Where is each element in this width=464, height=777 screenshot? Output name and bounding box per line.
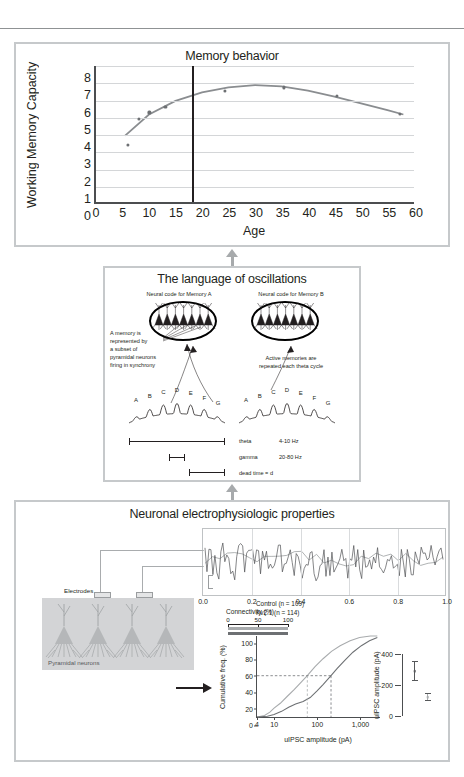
amplitude-tickmark: 200: [395, 685, 401, 686]
electrode-wire-2: [142, 566, 204, 570]
gamma-cycle-letter: C: [161, 389, 165, 395]
gamma-band-range: 20-80 Hz: [279, 454, 302, 460]
behavior-x-tick: 55: [382, 207, 396, 220]
cumulative-y-tick: 60: [245, 672, 253, 679]
behavior-y-tick: 8: [84, 72, 91, 85]
cumulative-frequency-chart: Control (n = 109) Kv2.1 (n = 114) Cumula…: [212, 602, 442, 757]
cumulative-x-tickmark: [257, 717, 258, 720]
amplitude-tick-label: 200: [381, 682, 393, 689]
behavior-vertical-marker: [192, 66, 194, 202]
theta-period-bar: [129, 441, 225, 442]
ephys-title: Neuronal electrophysiologic properties: [16, 507, 448, 521]
arrow-right-icon-slice-to-cumchart: [176, 683, 212, 694]
amplitude-inset-y-label: uIPSC amplitude (pA): [370, 654, 382, 716]
behavior-x-tick: 35: [276, 207, 290, 220]
gridline: [96, 135, 414, 136]
amplitude-tickmark: 0: [395, 716, 401, 717]
connectivity-inset: Connectivity (%) 050100: [226, 608, 292, 634]
pyramidal-neurons-label: Pyramidal neurons: [48, 659, 100, 666]
behavior-y-axis-label: Working Memory Capacity: [24, 66, 40, 204]
gamma-cycle-letter: D: [285, 387, 289, 393]
gamma-cycle-letter: E: [299, 390, 303, 396]
amplitude-mean-point: [426, 696, 429, 699]
recording-trace-plot: 0.00.20.40.60.81.0: [202, 528, 446, 596]
cumulative-x-tickmark: [317, 717, 318, 720]
gridline: [96, 118, 414, 119]
theta-band-name: theta: [239, 438, 251, 444]
electrode-wire-1-down: [100, 550, 105, 594]
behavior-y-tick: 1: [84, 193, 91, 206]
connectivity-tick-label: 0: [226, 616, 229, 623]
theta-band-range: 4-10 Hz: [279, 438, 299, 444]
behavior-fit-curve: [96, 66, 414, 202]
gamma-cycle-letter: G: [216, 400, 221, 406]
page-top-divider: [0, 28, 464, 29]
cumulative-y-tick: 100: [241, 640, 253, 647]
behavior-x-tick: 20: [196, 207, 210, 220]
behavior-x-axis-label: Age: [94, 224, 414, 238]
gamma-cycle-letter: E: [189, 390, 193, 396]
gamma-cycle-letter: A: [134, 397, 138, 403]
cumulative-x-axis-label: uIPSC amplitude (pA): [256, 736, 380, 743]
ephys-panel: Neuronal electrophysiologic properties 0…: [14, 500, 450, 762]
behavior-x-tick: 15: [169, 207, 183, 220]
memory-behavior-panel: Memory behavior Working Memory Capacity …: [14, 42, 450, 247]
electrode-wire-2-down: [142, 566, 147, 594]
cumulative-x-tick: 1,000: [352, 721, 370, 728]
gridline: [96, 83, 414, 84]
dead-time-bar: [189, 472, 225, 473]
amplitude-inset: uIPSC amplitude (pA) 0200400: [380, 652, 436, 726]
cumulative-x-tickmark: [274, 717, 275, 720]
behavior-x-tick: 25: [222, 207, 236, 220]
behavior-plot-area: 012345678051015202530354045505560: [94, 66, 414, 204]
arrow-up-icon-ephys-to-oscillations: [226, 484, 239, 501]
oscillation-diagram: [105, 268, 363, 484]
cumulative-plot-area: 0204060801004101001,000: [256, 636, 380, 718]
behavior-x-tick: 30: [249, 207, 263, 220]
trace-gridline: [349, 529, 350, 595]
electrode-wire-1: [100, 550, 204, 554]
trace-gridline: [398, 529, 399, 595]
gamma-period-bar: [169, 457, 185, 458]
trace-gridline: [301, 529, 302, 595]
dead-time-label: dead time = d: [239, 470, 273, 476]
gamma-band-name: gamma: [239, 454, 258, 460]
behavior-y-tick: 2: [84, 176, 91, 189]
cumulative-x-tick: 10: [270, 721, 278, 728]
behavior-x-tick: 50: [356, 207, 370, 220]
trace-x-tick: 0.0: [198, 598, 208, 605]
behavior-y-tick: 6: [84, 107, 91, 120]
behavior-x-tick: 10: [142, 207, 156, 220]
behavior-y-tick: 7: [84, 90, 91, 103]
connectivity-tick-label: 100: [283, 616, 293, 623]
behavior-y-tick: 4: [84, 141, 91, 154]
connectivity-tick-label: 50: [255, 616, 262, 623]
gridline: [96, 66, 414, 67]
cumulative-y-tick: 0: [249, 722, 253, 729]
behavior-x-tick: 40: [302, 207, 316, 220]
gamma-cycle-letter: F: [202, 395, 206, 401]
behavior-x-tick: 60: [409, 207, 423, 220]
gridline: [96, 101, 414, 102]
amplitude-tick-label: 0: [389, 713, 393, 720]
gamma-cycle-letter: G: [326, 400, 331, 406]
trace-scale-bar: [208, 575, 213, 589]
cumulative-x-tick: 100: [311, 721, 323, 728]
cumulative-y-tick: 20: [245, 705, 253, 712]
cumulative-x-tickmark: [360, 717, 361, 720]
gamma-cycle-letter: D: [175, 387, 179, 393]
trace-x-tick: 1.0: [442, 598, 452, 605]
arrow-up-icon-behavior-to-oscillations: [226, 249, 239, 267]
gamma-cycle-letter: B: [148, 393, 152, 399]
behavior-x-tick: 0: [93, 207, 100, 220]
gridline: [96, 152, 414, 153]
behavior-y-tick: 0: [84, 210, 91, 223]
cumulative-y-tick: 40: [245, 689, 253, 696]
oscillations-panel: The language of oscillations Neural code…: [103, 266, 361, 482]
legend-control: Control (n = 109): [256, 600, 304, 607]
behavior-y-tick: 5: [84, 124, 91, 137]
gridline: [96, 187, 414, 188]
gridline: [96, 170, 414, 171]
electrodes-label: Electrodes: [64, 587, 93, 594]
amplitude-mean-point: [413, 670, 416, 673]
